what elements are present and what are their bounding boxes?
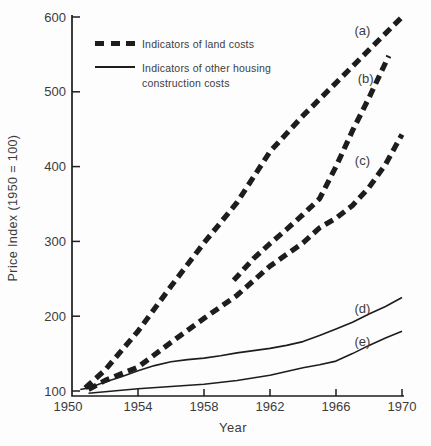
y-axis-label: Price Index (1950 = 100): [6, 98, 22, 318]
x-tick-label: 1954: [124, 399, 153, 414]
x-axis-label: Year: [203, 420, 263, 435]
legend: Indicators of land costs Indicators of o…: [95, 37, 300, 101]
y-tick-label: 500: [44, 84, 66, 99]
price-index-chart: 1002003004005006001950195419581962196619…: [0, 0, 431, 446]
series-housing-construction-cost-index-e-label: (e): [354, 334, 370, 349]
x-tick-label: 1962: [256, 399, 285, 414]
x-tick-label: 1958: [190, 399, 219, 414]
y-tick-label: 300: [44, 234, 66, 249]
y-tick-label: 200: [44, 309, 66, 324]
solid-line-sample-icon: [95, 61, 135, 73]
x-tick-label: 1966: [322, 399, 351, 414]
dashed-line-sample-icon: [95, 37, 135, 49]
legend-label-land-costs: Indicators of land costs: [142, 37, 254, 52]
y-tick-label: 600: [44, 10, 66, 25]
series-land-cost-index-c-label: (c): [355, 153, 370, 168]
legend-row-construction-costs: Indicators of other housing construction…: [95, 61, 300, 91]
y-tick-label: 100: [44, 384, 66, 399]
y-tick-label: 400: [44, 159, 66, 174]
x-tick-label: 1950: [54, 399, 83, 414]
legend-row-land-costs: Indicators of land costs: [95, 37, 300, 52]
x-tick-label: 1970: [388, 399, 417, 414]
legend-label-construction-costs: Indicators of other housing construction…: [142, 61, 300, 91]
series-housing-construction-cost-index-d-label: (d): [354, 301, 370, 316]
series-land-cost-index-b-label: (b): [358, 71, 374, 86]
series-land-cost-index-a-label: (a): [354, 23, 370, 38]
